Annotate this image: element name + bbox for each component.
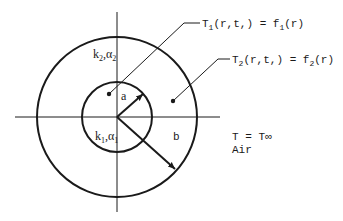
ambient-medium-label: Air	[232, 144, 252, 156]
outer-initial-condition: T2(r,t,) = f2(r)	[232, 54, 334, 68]
inner-region-properties: k1,α1	[95, 129, 118, 145]
radius-b-arrow	[117, 117, 175, 169]
radius-b-label: b	[173, 131, 180, 143]
outer-region-properties: k2,α2	[93, 47, 116, 63]
ambient-temperature-label: T = T∞	[232, 131, 272, 143]
radius-a-label: a	[121, 89, 127, 103]
inner-initial-condition: T1(r,t,) = f1(r)	[202, 18, 304, 32]
outer-leader-line	[173, 59, 230, 101]
cylinder-diagram: k2,α2 k1,α1 a b T1(r,t,) = f1(r) T2(r,t,…	[0, 0, 343, 221]
